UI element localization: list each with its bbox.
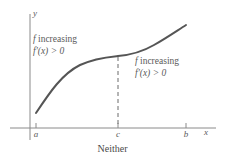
annotation-right-line2: f′(x) > 0 [135,67,179,79]
y-axis-label: y [33,8,37,18]
tick-label-c: c [111,129,125,139]
figure-caption: Neither [0,143,225,154]
tick-label-b: b [179,129,193,139]
annotation-right-interval: f increasing f′(x) > 0 [135,55,179,79]
annotation-left-line2: f′(x) > 0 [33,45,77,57]
x-axis-label: x [204,127,208,137]
annotation-right-line1: f increasing [135,55,179,67]
annotation-left-line1-text: increasing [36,34,77,44]
annotation-right-line1-text: increasing [138,56,179,66]
calculus-figure: y x a c b f increasing f′(x) > 0 f incre… [0,0,225,163]
tick-label-a: a [29,129,43,139]
annotation-left-interval: f increasing f′(x) > 0 [33,33,77,57]
annotation-left-line1: f increasing [33,33,77,45]
